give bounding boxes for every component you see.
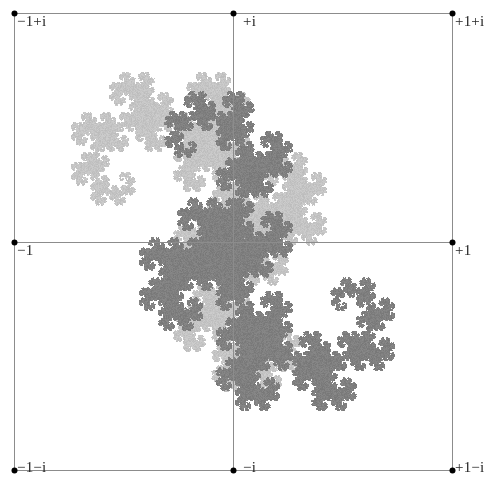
corner-label-bottom-right: +1−i: [455, 460, 484, 475]
axis-label-plus-1: +1: [455, 243, 471, 258]
corner-label-top-right: +1+i: [455, 14, 484, 29]
axis-label-minus-i: −i: [243, 460, 256, 475]
axis-label-plus-i: +i: [243, 14, 256, 29]
twin-dragon-fractal-canvas: [0, 0, 494, 491]
axis-label-minus-1: −1: [17, 243, 33, 258]
corner-label-top-left: −1+i: [17, 14, 46, 29]
complex-plane-plot: −1+i +i +1+i −1 +1 −1−i −i +1−i: [0, 0, 494, 491]
corner-label-bottom-left: −1−i: [17, 460, 46, 475]
